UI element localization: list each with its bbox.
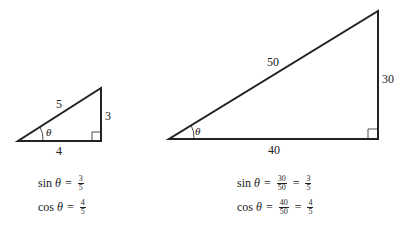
small-adjacent-label: 4	[56, 145, 62, 157]
small-cos-equation: cos θ = 45	[38, 199, 88, 216]
fn-name: sin	[237, 176, 251, 191]
equals: =	[293, 176, 300, 191]
small-sin-equation: sin θ = 35	[38, 175, 86, 192]
large-angle-label: θ	[195, 125, 200, 137]
theta: θ	[55, 176, 61, 191]
small-triangle	[18, 88, 101, 141]
equals: =	[264, 176, 271, 191]
triangles-figure	[0, 0, 408, 231]
small-hypotenuse-label: 5	[56, 98, 62, 110]
denominator: 5	[308, 208, 312, 216]
denominator: 50	[280, 208, 288, 216]
equals: =	[65, 176, 72, 191]
angle-arc-icon	[40, 127, 43, 141]
large-triangle	[169, 11, 378, 139]
theta: θ	[254, 176, 260, 191]
fn-name: cos	[237, 200, 253, 215]
denominator: 5	[306, 184, 310, 192]
theta: θ	[57, 200, 63, 215]
large-sin-equation: sin θ = 3050 = 35	[237, 175, 313, 192]
angle-arc-icon	[191, 125, 194, 139]
denominator: 50	[278, 184, 286, 192]
denominator: 5	[79, 184, 83, 192]
theta: θ	[256, 200, 262, 215]
fraction: 35	[78, 175, 84, 192]
equals: =	[67, 200, 74, 215]
large-adjacent-label: 40	[268, 144, 280, 156]
fraction: 4050	[279, 199, 289, 216]
large-opposite-label: 30	[382, 73, 394, 85]
fraction: 35	[305, 175, 311, 192]
equals: =	[295, 200, 302, 215]
fn-name: cos	[38, 200, 54, 215]
fraction: 45	[307, 199, 313, 216]
large-hypotenuse-label: 50	[267, 56, 279, 68]
fn-name: sin	[38, 176, 52, 191]
small-angle-label: θ	[46, 126, 51, 138]
small-opposite-label: 3	[105, 110, 111, 122]
fraction: 45	[80, 199, 86, 216]
fraction: 3050	[277, 175, 287, 192]
equals: =	[266, 200, 273, 215]
large-cos-equation: cos θ = 4050 = 45	[237, 199, 315, 216]
denominator: 5	[81, 208, 85, 216]
